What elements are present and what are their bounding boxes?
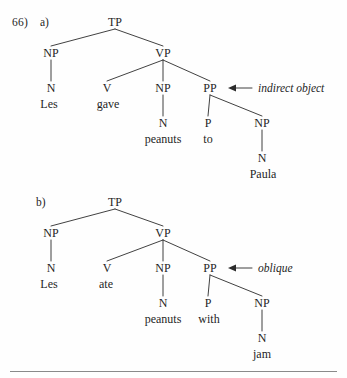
- textbook-page-figure: 66) a) b) TPNPVPNVNPPPNPNPNLesgavepeanut…: [0, 0, 347, 378]
- annotation-caption: oblique: [258, 262, 293, 275]
- page-divider-rule: [10, 371, 337, 372]
- annotation-oblique: oblique: [228, 262, 293, 275]
- annotation-caption: indirect object: [258, 82, 325, 95]
- annotation-indirect-object: indirect object: [228, 82, 325, 95]
- arrow-left-icon: [228, 84, 236, 91]
- arrow-left-icon: [228, 264, 236, 271]
- annotation-arrows-layer: indirect objectoblique: [0, 0, 347, 378]
